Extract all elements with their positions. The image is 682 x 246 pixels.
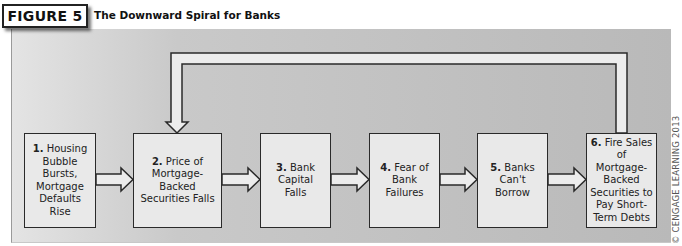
step-number: 2. bbox=[152, 156, 163, 167]
arrow-4-to-5 bbox=[440, 168, 477, 191]
step-box-5: 5. Banks Can't Borrow bbox=[477, 133, 548, 228]
step-box-4: 4. Fear of Bank Failures bbox=[369, 133, 440, 228]
step-text: Banks Can't Borrow bbox=[495, 162, 535, 198]
step-text: Fire Sales of Mortgage-Backed Securities… bbox=[590, 137, 653, 223]
step-number: 5. bbox=[490, 162, 501, 173]
step-box-3: 3. Bank Capital Falls bbox=[260, 133, 331, 228]
arrow-3-to-4 bbox=[331, 168, 369, 191]
step-box-2: 2. Price of Mortgage-Backed Securities F… bbox=[133, 133, 222, 228]
step-number: 3. bbox=[276, 162, 287, 173]
step-text: Fear of Bank Failures bbox=[385, 162, 428, 198]
step-number: 1. bbox=[33, 143, 44, 154]
arrow-5-to-6 bbox=[548, 168, 586, 191]
step-box-1: 1. Housing Bubble Bursts, Mortgage Defau… bbox=[24, 133, 96, 228]
arrow-1-to-2 bbox=[96, 168, 133, 191]
flow-arrows bbox=[0, 0, 682, 246]
figure-label: FIGURE 5 bbox=[2, 4, 88, 28]
step-box-6: 6. Fire Sales of Mortgage-Backed Securit… bbox=[586, 133, 657, 228]
arrow-2-to-3 bbox=[222, 168, 260, 191]
step-number: 6. bbox=[591, 137, 602, 148]
step-text: Housing Bubble Bursts, Mortgage Defaults… bbox=[36, 143, 87, 217]
feedback-arrow-6-to-2 bbox=[166, 53, 627, 133]
step-number: 4. bbox=[380, 162, 391, 173]
